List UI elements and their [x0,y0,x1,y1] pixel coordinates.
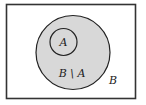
set-b-label: B [108,74,117,87]
venn-diagram: A B \ A B [0,0,146,105]
set-a-label: A [59,36,68,49]
difference-region-label: B \ A [58,67,86,80]
